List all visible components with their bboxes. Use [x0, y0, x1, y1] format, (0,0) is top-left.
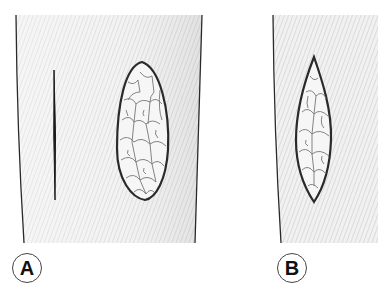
panel-label-b-text: B	[285, 257, 299, 280]
panel-label-a-text: A	[20, 257, 34, 280]
panel-label-a: A	[12, 253, 42, 283]
panel-a-skin	[16, 15, 202, 243]
figure-canvas	[0, 0, 378, 294]
panel-label-b: B	[277, 253, 307, 283]
